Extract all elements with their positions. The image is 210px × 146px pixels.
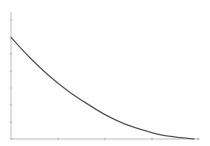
data-line [11, 37, 194, 139]
axes [10, 12, 201, 141]
line-chart [0, 0, 210, 146]
